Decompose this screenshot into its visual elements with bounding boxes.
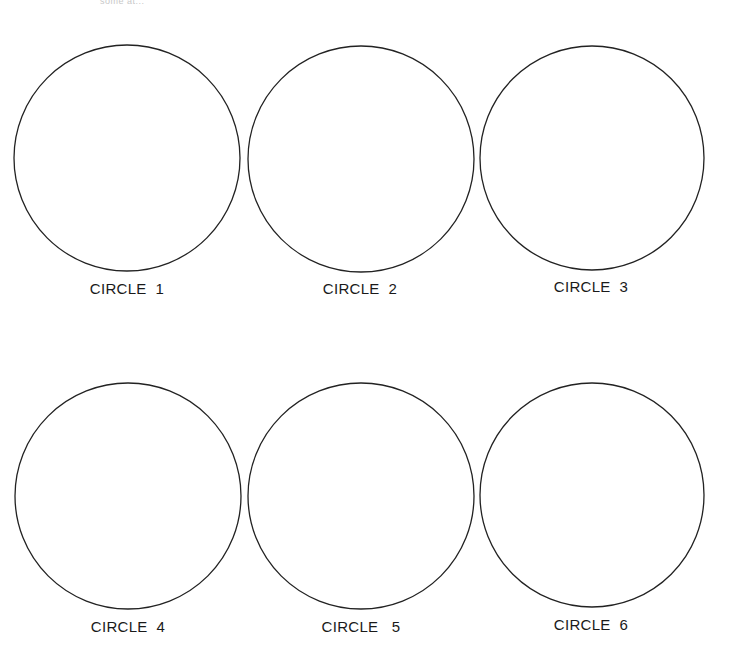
circle-1 (14, 45, 240, 271)
circle-6 (480, 383, 704, 607)
circle-4 (15, 383, 241, 609)
circle-2 (248, 46, 474, 272)
circle-4-label: CIRCLE 4 (91, 618, 165, 635)
circles-worksheet (0, 0, 737, 653)
circle-3-label: CIRCLE 3 (554, 278, 628, 295)
circle-3 (480, 46, 704, 270)
circle-1-label: CIRCLE 1 (90, 280, 164, 297)
circle-5-label: CIRCLE 5 (322, 618, 401, 635)
circle-2-label: CIRCLE 2 (323, 280, 397, 297)
circle-5 (248, 383, 474, 609)
circle-6-label: CIRCLE 6 (554, 616, 628, 633)
